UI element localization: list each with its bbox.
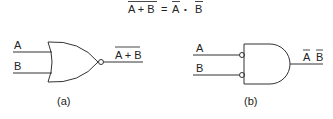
nor-output-label: A + B [115, 49, 142, 61]
and-input-a-label: A [196, 42, 204, 54]
and-gate-inverted-inputs-diagram: A B A B (b) [193, 42, 323, 107]
nor-inversion-bubble [99, 60, 104, 65]
and-input-b-label: B [196, 62, 203, 74]
and-gate-body [244, 44, 290, 84]
equation-dot: • [184, 5, 187, 14]
de-morgan-equation: A + B = A • B [128, 2, 203, 16]
logic-diagram: A + B = A • B A B A + B (a) A B A B (b) [0, 0, 333, 119]
nor-input-a-label: A [14, 39, 22, 51]
equation-rhs-b: B [195, 3, 202, 15]
nor-gate-diagram: A B A + B (a) [13, 39, 143, 107]
and-output-b-label: B [316, 51, 323, 63]
nor-input-b-label: B [14, 60, 21, 72]
equation-lhs: A + B [128, 3, 155, 15]
equation-equals: = [161, 3, 167, 15]
caption-a: (a) [57, 95, 70, 107]
caption-b: (b) [244, 95, 257, 107]
nor-gate-body [48, 42, 98, 82]
equation-rhs-a: A [172, 3, 180, 15]
and-output-a-label: A [303, 51, 311, 63]
